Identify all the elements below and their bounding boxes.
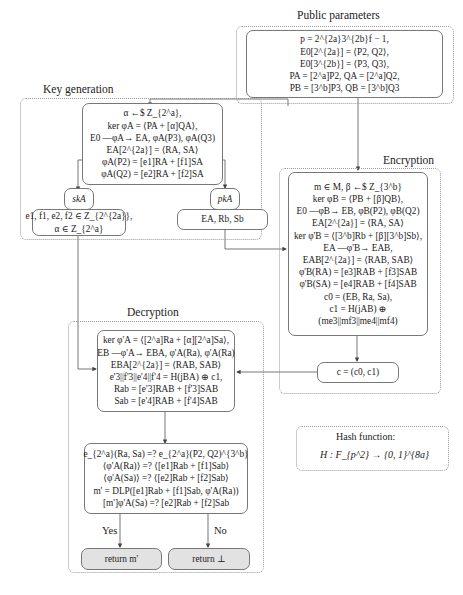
check-line: [m']φ'A(Sa) =? [e2]Rab + [f2]Sab <box>103 497 229 509</box>
param-line: p = 2^{2a}3^{2b}f − 1, <box>300 33 388 45</box>
hash-function-title: Hash function: <box>336 431 395 442</box>
encryption-line: m ∈ M, β ←$ Z_{3^b} <box>314 181 402 193</box>
key-generation-box: α ←$ Z_{2^a}, ker φA = ⟨PA + [α]QA⟩, E0 … <box>82 103 223 185</box>
public-key-line: EA, Rb, Sb <box>201 213 243 225</box>
public-key-box: EA, Rb, Sb <box>177 209 268 230</box>
decryption-line: Sab = [e'4]RAB + [f'4]SAB <box>114 395 217 407</box>
return-message: return m' <box>105 553 138 565</box>
param-line: PA = [2^a]P2, QA = [2^a]Q2, <box>289 70 399 82</box>
decryption-title: Decryption <box>127 306 179 318</box>
verification-box: e_{2^a}(Ra, Sa) =? e_{2^a}(P2, Q2)^{3^b}… <box>84 443 248 514</box>
keygen-line: E0 —φA→ EA, φA(P3), φA(Q3) <box>90 132 215 144</box>
keygen-line: α ←$ Z_{2^a}, <box>123 107 181 119</box>
hash-function-definition: H : F_{p^2} → {0, 1}^{8a} <box>320 449 429 460</box>
secret-key-line: α ∈ Z_{2^a} <box>55 223 104 235</box>
param-line: E0[2^{2a}] = ⟨P2, Q2⟩, <box>300 46 389 58</box>
decryption-line: Rab = [e'3]RAB + [f'3]SAB <box>114 383 218 395</box>
secret-key-label-box: skA <box>64 188 94 210</box>
keygen-line: EA[2^{2a}] = ⟨RA, SA⟩ <box>107 144 199 156</box>
check-line: e_{2^a}(Ra, Sa) =? e_{2^a}(P2, Q2)^{3^b} <box>83 448 248 460</box>
decryption-box: ker φ'A = ⟨[2^a]Ra + [α][2^a]Sa⟩, EB —φ'… <box>97 330 235 412</box>
decryption-line: EB —φ'A→ EBA, φ'A(Ra), φ'A(Ra) <box>97 347 234 359</box>
param-line: E0[3^{2b}] = ⟨P3, Q3⟩, <box>300 58 389 70</box>
check-line: m' = DLP([e1]Rab + [f1]Sab, φ'A(Ra)) <box>93 485 238 497</box>
key-generation-title: Key generation <box>43 83 114 95</box>
decryption-line: EBA[2^{2a}] = ⟨RAB, SAB⟩ <box>111 359 222 371</box>
keygen-line: φA(P2) = [e1]RA + [f1]SA <box>102 156 203 168</box>
no-label: No <box>214 525 227 536</box>
secret-key-label: skA <box>72 193 85 205</box>
check-line: ⟨φ'A(Sa)⟩ =? ⟨[e2]Rab + [f2]Sab⟩ <box>103 472 229 484</box>
encryption-box: m ∈ M, β ←$ Z_{3^b} ker φB = ⟨PB + [β]QB… <box>288 172 428 336</box>
encryption-line: c1 = H(jAB) ⊕ <box>329 303 386 315</box>
decryption-line: e'3||f'3||e'4||f'4 = H(jBA) ⊕ c1, <box>110 371 223 383</box>
encryption-line: ker φ'B = ⟨[3^b]Rb + [β][3^b]Sb⟩, <box>294 230 422 242</box>
return-failure: return ⊥ <box>192 553 225 565</box>
keygen-line: ker φA = ⟨PA + [α]QA⟩, <box>107 120 197 132</box>
encryption-line: c0 = (EB, Ra, Sa), <box>324 291 392 303</box>
encryption-line: EA —φ'B→ EAB, <box>323 242 392 254</box>
public-key-label-box: pkA <box>210 188 240 210</box>
public-key-label: pkA <box>218 193 232 205</box>
param-line: PB = [3^b]P3, QB = [3^b]Q3 <box>290 82 400 94</box>
check-line: ⟨φ'A(Ra)⟩ =? ⟨[e1]Rab + [f1]Sab⟩ <box>103 460 230 472</box>
encryption-line: EAB[2^{2a}] = ⟨RAB, SAB⟩ <box>303 254 414 266</box>
secret-key-line: e1, f1, e2, f2 ∈ Z_{2^{2a}}, <box>26 210 133 222</box>
encryption-line: φ'B(RA) = [e3]RAB + [f3]SAB <box>299 266 417 278</box>
encryption-line: (me3||mf3||me4||mf4) <box>318 315 397 327</box>
secret-key-box: e1, f1, e2, f2 ∈ Z_{2^{2a}}, α ∈ Z_{2^a} <box>32 209 126 236</box>
public-parameters-title: Public parameters <box>297 9 380 21</box>
encryption-line: EA[2^{2a}] = ⟨RA, SA⟩ <box>312 217 404 229</box>
return-failure-box: return ⊥ <box>168 548 250 570</box>
ciphertext: c = (c0, c1) <box>337 366 379 378</box>
keygen-line: φA(Q2) = [e2]RA + [f2]SA <box>101 168 204 180</box>
ciphertext-box: c = (c0, c1) <box>317 362 399 383</box>
encryption-line: E0 —φB→ EB, φB(P2), φB(Q2) <box>296 205 419 217</box>
return-message-box: return m' <box>81 548 162 570</box>
encryption-line: φ'B(SA) = [e4]RAB + [f4]SAB <box>299 278 416 290</box>
public-parameters-box: p = 2^{2a}3^{2b}f − 1, E0[2^{2a}] = ⟨P2,… <box>246 30 443 98</box>
yes-label: Yes <box>102 525 117 536</box>
decryption-line: ker φ'A = ⟨[2^a]Ra + [α][2^a]Sa⟩, <box>103 334 229 346</box>
encryption-title: Encryption <box>383 154 434 166</box>
encryption-line: ker φB = ⟨PB + [β]QB⟩, <box>313 193 403 205</box>
